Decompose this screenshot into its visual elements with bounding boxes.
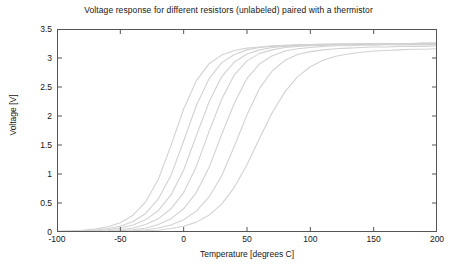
y-axis-title: Voltage [V] [8, 70, 18, 160]
chart-figure: Voltage response for different resistors… [0, 0, 457, 272]
x-tick-label: 200 [430, 234, 444, 244]
y-tick-label: 2.5 [40, 82, 52, 92]
x-tick-label: 50 [242, 234, 251, 244]
y-tick-label: 2 [47, 111, 52, 121]
y-tick-label: 0.5 [40, 198, 52, 208]
plot-svg [57, 29, 437, 232]
y-tick-label: 1.5 [40, 140, 52, 150]
x-tick-label: 100 [303, 234, 317, 244]
data-curve [57, 46, 437, 232]
data-curve [57, 45, 437, 232]
x-tick-label: 150 [367, 234, 381, 244]
axis-ticks [57, 29, 437, 232]
chart-title: Voltage response for different resistors… [0, 5, 457, 15]
x-tick-label: -100 [48, 234, 65, 244]
data-curve [57, 44, 437, 233]
plot-frame [58, 30, 437, 232]
plot-area [57, 29, 437, 232]
data-curve [57, 49, 437, 232]
data-curves [57, 43, 437, 232]
x-tick-label: -50 [114, 234, 126, 244]
y-tick-label: 3 [47, 53, 52, 63]
data-curve [57, 44, 437, 232]
data-curve [57, 44, 437, 233]
x-axis-tick-labels: -100-50050100150200 [57, 234, 437, 248]
x-tick-label: 0 [181, 234, 186, 244]
data-curve [57, 43, 437, 232]
y-tick-label: 1 [47, 169, 52, 179]
y-tick-label: 3.5 [40, 24, 52, 34]
x-axis-title: Temperature [degrees C] [57, 249, 437, 259]
